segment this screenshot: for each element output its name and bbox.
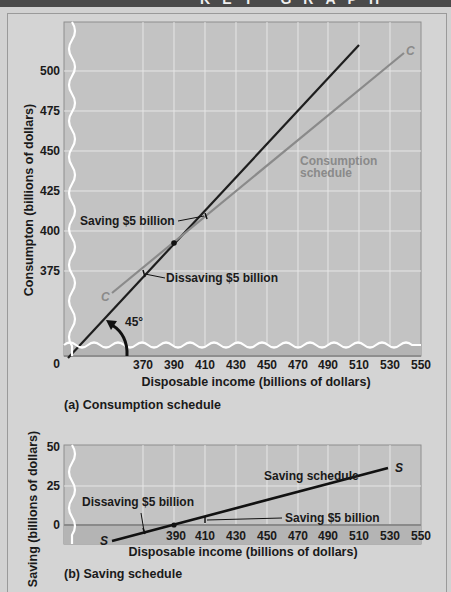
svg-text:0: 0 — [53, 518, 60, 532]
svg-text:530: 530 — [380, 529, 400, 543]
c-start-label: C — [101, 290, 110, 304]
svg-text:470: 470 — [288, 358, 308, 372]
saving-chart: Saving schedule Dissaving $5 billion Sav… — [26, 431, 431, 587]
svg-text:25: 25 — [47, 479, 61, 493]
svg-text:390: 390 — [164, 358, 184, 372]
svg-text:490: 490 — [318, 358, 338, 372]
break-even-point-saving — [171, 522, 176, 527]
y-axis-title: Consumpton (billions of dollars) — [22, 104, 36, 296]
svg-text:50: 50 — [47, 440, 61, 454]
svg-text:530: 530 — [380, 358, 400, 372]
svg-text:425: 425 — [40, 184, 60, 198]
svg-text:410: 410 — [195, 529, 215, 543]
consumption-chart: Saving $5 billion Dissaving $5 billion C… — [22, 22, 431, 412]
svg-text:430: 430 — [226, 529, 246, 543]
x-tick-labels: 370 390 410 430 450 470 490 510 530 550 — [133, 358, 431, 372]
dissaving-annotation: Dissaving $5 billion — [166, 271, 278, 285]
panel-b-title: (b) Saving schedule — [64, 567, 182, 581]
saving-annotation: Saving $5 billion — [80, 214, 175, 228]
svg-text:490: 490 — [318, 529, 338, 543]
origin-label: 0 — [53, 357, 60, 371]
svg-text:550: 550 — [411, 358, 431, 372]
svg-text:475: 475 — [40, 104, 60, 118]
svg-text:510: 510 — [349, 529, 369, 543]
svg-text:430: 430 — [226, 358, 246, 372]
svg-text:390: 390 — [166, 529, 186, 543]
svg-text:470: 470 — [288, 529, 308, 543]
x-axis-title-saving: Disposable income (billions of dollars) — [128, 545, 357, 559]
svg-text:375: 375 — [40, 264, 60, 278]
saving-schedule-title: Saving schedule — [264, 469, 359, 483]
svg-text:410: 410 — [195, 358, 215, 372]
angle-label: 45° — [125, 315, 143, 329]
c-end-label: C — [406, 44, 415, 58]
svg-text:450: 450 — [257, 358, 277, 372]
dissaving-annotation-b: Dissaving $5 billion — [82, 495, 194, 509]
svg-text:370: 370 — [133, 358, 153, 372]
y-axis-title-saving: Saving (billions of dollars) — [26, 431, 40, 587]
svg-text:450: 450 — [40, 144, 60, 158]
y-tick-labels: 500 475 450 425 400 375 0 — [40, 64, 60, 371]
break-even-point — [171, 240, 177, 246]
s-start-label: S — [100, 534, 108, 548]
x-axis-title: Disposable income (billions of dollars) — [141, 375, 370, 389]
panel-a-title: (a) Consumption schedule — [64, 398, 221, 412]
svg-text:550: 550 — [411, 529, 431, 543]
svg-text:500: 500 — [40, 64, 60, 78]
saving-annotation-b: Saving $5 billion — [285, 511, 380, 525]
s-end-label: S — [395, 461, 403, 475]
svg-text:510: 510 — [349, 358, 369, 372]
svg-text:400: 400 — [40, 224, 60, 238]
svg-text:450: 450 — [257, 529, 277, 543]
x-tick-labels-saving: 390 410 430 450 470 490 510 530 550 — [166, 529, 431, 543]
consumption-schedule-label-2: schedule — [300, 166, 352, 180]
y-tick-labels-saving: 50 25 0 — [47, 440, 61, 532]
